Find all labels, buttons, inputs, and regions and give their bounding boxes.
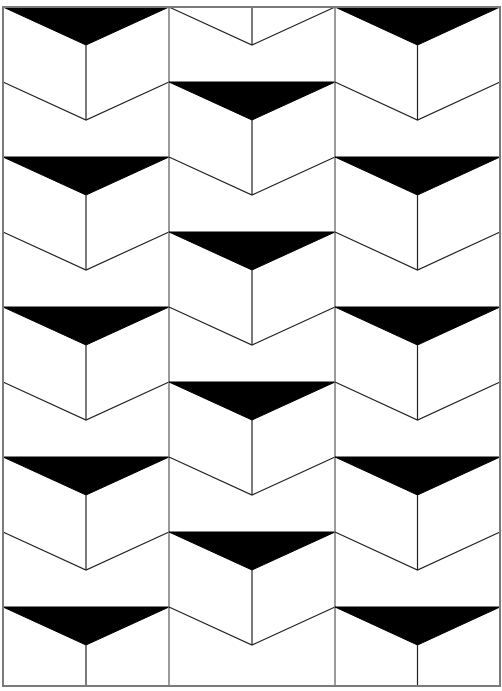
chevron-pattern-canvas bbox=[0, 0, 502, 691]
